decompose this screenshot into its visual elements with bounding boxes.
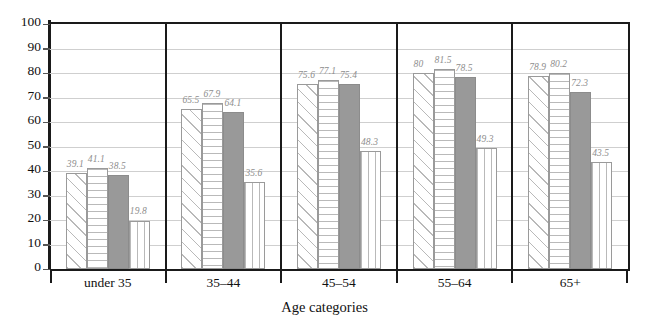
- bar: [339, 84, 360, 269]
- y-axis-tick-label: 100: [0, 15, 41, 29]
- gridline: [50, 49, 628, 50]
- y-axis-tick-mark: [43, 122, 50, 124]
- y-axis-tick-label: 10: [0, 236, 41, 250]
- group-separator: [396, 24, 398, 269]
- bar-value-label: 38.5: [109, 162, 126, 172]
- y-axis-tick-mark: [43, 220, 50, 222]
- bar-value-label: 78.5: [456, 64, 473, 74]
- bar-value-label: 67.9: [203, 90, 220, 100]
- y-axis-tick-mark: [43, 73, 50, 75]
- y-axis-tick-label: 70: [0, 89, 41, 103]
- plot-area: [50, 22, 630, 271]
- bar: [570, 92, 591, 269]
- bar: [181, 109, 202, 269]
- x-axis-category-label: 65+: [512, 276, 628, 290]
- bar-value-label: 41.1: [88, 155, 105, 165]
- y-axis-tick-mark: [43, 24, 50, 26]
- y-axis-tick-mark: [43, 244, 50, 246]
- bar-value-label: 64.1: [224, 99, 241, 109]
- y-axis-tick-label: 90: [0, 40, 41, 54]
- bar-value-label: 72.3: [571, 79, 588, 89]
- y-axis-tick-mark: [43, 48, 50, 50]
- bar: [455, 77, 476, 269]
- bar-value-label: 81.5: [435, 56, 452, 66]
- bar: [244, 182, 265, 269]
- y-axis-tick-label: 50: [0, 138, 41, 152]
- bar-value-label: 48.3: [361, 138, 378, 148]
- y-axis-tick-label: 40: [0, 162, 41, 176]
- bar-value-label: 19.8: [130, 207, 147, 217]
- y-axis-tick-mark: [43, 269, 50, 271]
- y-axis-tick-label: 80: [0, 64, 41, 78]
- group-separator: [511, 24, 513, 269]
- y-axis-tick-mark: [43, 97, 50, 99]
- bar: [108, 175, 129, 269]
- bar: [528, 76, 549, 269]
- bar: [202, 103, 223, 269]
- bar: [297, 84, 318, 269]
- x-axis-category-label: under 35: [50, 276, 166, 290]
- bar: [129, 221, 150, 270]
- y-axis-tick-label: 20: [0, 211, 41, 225]
- y-axis-tick-mark: [43, 146, 50, 148]
- bar: [476, 148, 497, 269]
- bar: [360, 151, 381, 269]
- group-separator: [280, 24, 282, 269]
- bar-value-label: 77.1: [319, 67, 336, 77]
- gridline: [50, 73, 628, 74]
- bar: [591, 162, 612, 269]
- y-axis-tick-label: 30: [0, 187, 41, 201]
- y-axis-tick-mark: [43, 195, 50, 197]
- bar-value-label: 43.5: [592, 149, 609, 159]
- bar: [413, 73, 434, 269]
- bar: [549, 73, 570, 269]
- y-axis-tick-mark: [43, 171, 50, 173]
- bar-value-label: 39.1: [67, 160, 84, 170]
- bar-value-label: 65.5: [182, 96, 199, 106]
- bar: [434, 69, 455, 269]
- group-separator: [165, 24, 167, 269]
- y-axis-tick-label: 60: [0, 113, 41, 127]
- bar: [223, 112, 244, 269]
- bar-value-label: 35.6: [245, 169, 262, 179]
- x-axis-category-label: 55–64: [397, 276, 513, 290]
- x-axis-category-label: 35–44: [166, 276, 282, 290]
- bar: [87, 168, 108, 269]
- bar-chart: Age categories 100908070605040302010039.…: [0, 0, 649, 335]
- bar-value-label: 80: [414, 60, 424, 70]
- bar: [66, 173, 87, 269]
- y-axis-tick-label: 0: [0, 260, 41, 274]
- bar-value-label: 80.2: [550, 60, 567, 70]
- bar-value-label: 78.9: [529, 63, 546, 73]
- bar: [318, 80, 339, 269]
- x-axis-title: Age categories: [0, 299, 649, 316]
- bar-value-label: 49.3: [477, 135, 494, 145]
- bar-value-label: 75.4: [340, 71, 357, 81]
- bar-value-label: 75.6: [298, 71, 315, 81]
- x-axis-category-label: 45–54: [281, 276, 397, 290]
